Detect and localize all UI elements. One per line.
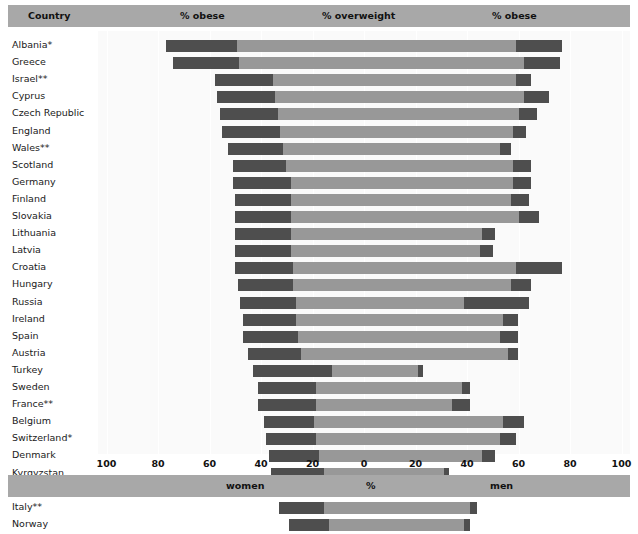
men-obese-segment [516,262,562,274]
category-label: Latvia [12,241,98,258]
category-label: Albania* [12,36,98,53]
women-obese-segment [220,108,256,120]
category-label: Switzerland* [12,429,98,446]
women-overweight-segment [217,57,364,69]
men-overweight-segment [364,365,418,377]
women-obese-segment [235,211,268,223]
chart-row [98,55,630,72]
women-obese-segment [215,74,251,86]
men-overweight-segment [364,108,519,120]
footer-men-label: men [490,475,513,497]
women-obese-segment [173,57,217,69]
women-obese-inner-segment [279,348,301,360]
category-label: Lithuania [12,224,98,241]
women-obese-inner-segment [269,245,291,257]
women-obese-segment [228,143,261,155]
men-overweight-segment [364,279,511,291]
men-overweight-segment [364,40,516,52]
men-obese-segment [524,57,560,69]
axis-tick-label: 20 [409,456,422,472]
men-overweight-segment [364,331,500,343]
chart-row [98,329,630,346]
chart-row [98,295,630,312]
women-obese-inner-segment [269,177,291,189]
women-obese-segment [258,399,294,411]
men-overweight-segment [364,314,503,326]
chart-row [98,517,630,534]
women-obese-inner-segment [271,262,293,274]
men-obese-segment [464,519,469,531]
women-obese-inner-segment [307,519,329,531]
axis-tick-label: 100 [97,456,117,472]
category-label: Denmark [12,446,98,463]
women-obese-segment [235,228,268,240]
men-overweight-segment [364,502,470,514]
footer-band: women % men [8,475,630,497]
women-obese-segment [289,519,307,531]
chart-row [98,500,630,517]
axis-tick-label: 40 [460,456,473,472]
axis-tick-label: 80 [563,456,576,472]
men-obese-segment [513,126,526,138]
women-obese-inner-segment [261,143,283,155]
men-obese-segment [452,399,470,411]
men-obese-segment [511,194,529,206]
category-label: Spain [12,327,98,344]
axis-tick-label: 60 [203,456,216,472]
category-label: Greece [12,53,98,70]
category-label: France** [12,395,98,412]
men-overweight-segment [364,74,516,86]
men-obese-segment [418,365,423,377]
men-obese-segment [508,348,518,360]
category-label: Croatia [12,258,98,275]
axis-tick-label: 40 [254,456,267,472]
category-label: Turkey [12,361,98,378]
men-overweight-segment [364,228,482,240]
men-obese-segment [464,297,528,309]
men-obese-segment [511,279,532,291]
category-label: Austria [12,344,98,361]
men-obese-segment [500,433,515,445]
women-overweight-segment [215,40,364,52]
women-obese-segment [222,126,258,138]
chart-row [98,192,630,209]
men-obese-segment [500,143,510,155]
women-obese-segment [264,416,292,428]
men-overweight-segment [364,416,503,428]
chart-row [98,124,630,141]
men-obese-segment [500,331,518,343]
men-overweight-segment [364,160,513,172]
men-overweight-segment [364,194,511,206]
men-overweight-segment [364,245,480,257]
men-obese-segment [462,382,470,394]
chart-row [98,260,630,277]
chart-row [98,380,630,397]
category-label: Scotland [12,156,98,173]
chart-row [98,431,630,448]
men-obese-segment [519,211,540,223]
women-obese-segment [258,382,294,394]
header-right-section-label: % obese [492,5,537,27]
category-label: Sweden [12,378,98,395]
men-obese-segment [516,40,562,52]
chart-row [98,38,630,55]
men-overweight-segment [364,57,524,69]
header-band: Country % obese % overweight % obese [8,5,630,27]
chart-row [98,226,630,243]
chart-row [98,346,630,363]
women-obese-inner-segment [274,297,296,309]
category-label: Czech Republic [12,104,98,121]
category-label: Italy** [12,498,98,515]
men-overweight-segment [364,177,513,189]
axis-tick-label: 60 [512,456,525,472]
women-obese-segment [238,279,271,291]
category-label: Israel** [12,70,98,87]
women-obese-segment [233,177,269,189]
x-axis: 10080604020020406080100 [98,456,630,472]
chart-row [98,363,630,380]
chart-row [98,209,630,226]
women-obese-segment [253,365,310,377]
women-obese-inner-segment [294,433,316,445]
men-obese-segment [470,502,478,514]
women-obese-inner-segment [269,194,291,206]
